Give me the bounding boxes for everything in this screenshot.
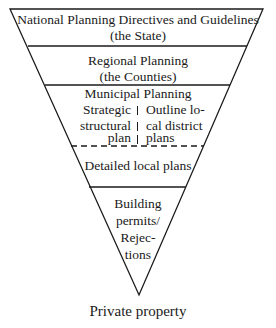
municipal-separator-2 bbox=[137, 122, 138, 131]
municipal-separator-3 bbox=[137, 135, 138, 144]
level-national-line2: (the State) bbox=[0, 28, 276, 44]
municipal-right-1: Outline lo- bbox=[146, 102, 205, 119]
municipal-right-3: plans bbox=[146, 130, 175, 147]
level-detailed-local-plans: Detailed local plans bbox=[0, 158, 276, 174]
municipal-left-3: plan bbox=[108, 130, 131, 147]
level-national-line1: National Planning Directives and Guideli… bbox=[0, 12, 276, 28]
level-regional-line1: Regional Planning bbox=[0, 53, 276, 69]
municipal-separator-1 bbox=[137, 106, 138, 115]
municipal-left-1: Strategic bbox=[83, 102, 131, 119]
level-regional-line2: (the Counties) bbox=[0, 69, 276, 85]
base-label-private-property: Private property bbox=[0, 302, 276, 320]
level-building-line1: Building bbox=[0, 196, 276, 212]
level-municipal-title: Municipal Planning bbox=[0, 86, 276, 102]
level-building-line2: permits/ bbox=[0, 213, 276, 229]
level-building-line3: Rejec- bbox=[0, 230, 276, 246]
level-building-line4: tions bbox=[0, 247, 276, 263]
